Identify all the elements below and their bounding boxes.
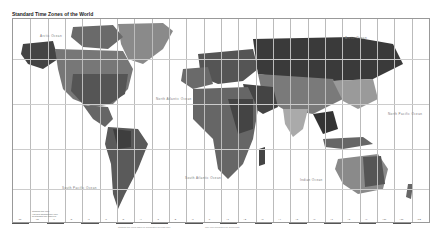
meridian-line <box>342 19 343 222</box>
meridian-line <box>308 19 309 222</box>
zone-offset-label: 0 <box>209 218 210 221</box>
zone-offset-label: -2 <box>174 218 176 221</box>
parallel-line <box>13 104 429 105</box>
zone-bar <box>116 223 133 224</box>
zone-offset-label: -7 <box>87 218 89 221</box>
zone-bar <box>151 223 168 224</box>
zone-bar <box>359 223 376 224</box>
meridian-line <box>134 19 135 222</box>
zone-bar <box>81 223 98 224</box>
zone-offset-label: -8 <box>70 218 72 221</box>
zone-offset-label: +3 <box>261 218 264 221</box>
zone-offset-label: +2 <box>243 218 246 221</box>
zone-offset-label: -9 <box>53 218 55 221</box>
zone-offset-label: -3 <box>157 218 159 221</box>
meridian-line <box>152 19 153 222</box>
meridian-line <box>394 19 395 222</box>
zone-offset-label: -11 <box>18 218 21 221</box>
zone-offset-label: -4 <box>139 218 141 221</box>
meridian-line <box>221 19 222 222</box>
zone-offset-label: +1 <box>226 218 229 221</box>
meridian-line <box>256 19 257 222</box>
zone-offset-label: +11 <box>399 218 403 221</box>
meridian-line <box>412 19 413 222</box>
zone-offset-label: +5 <box>295 218 298 221</box>
meridian-line <box>238 19 239 222</box>
map-legend: Standard time zone Half-hour standard ti… <box>32 210 58 218</box>
time-zone-scale: -11-10-9-8-7-6-5-4-3-2-10+1+2+3+4+5+6+7+… <box>12 218 428 224</box>
meridian-line <box>273 19 274 222</box>
zone-offset-label: -5 <box>122 218 124 221</box>
zone-offset-label: +12 <box>417 218 421 221</box>
parallel-line <box>13 59 429 60</box>
meridian-line <box>48 19 49 222</box>
zone-offset-label: +9 <box>365 218 368 221</box>
ocean-label: Arctic Ocean <box>40 34 62 38</box>
meridian-line <box>204 19 205 222</box>
zone-bar <box>185 223 202 224</box>
meridian-line <box>360 19 361 222</box>
zone-offset-label: +8 <box>347 218 350 221</box>
zone-offset-label: -10 <box>35 218 39 221</box>
footer-note-right: Time zone boundaries are approximate <box>205 226 240 228</box>
zone-bar <box>255 223 272 224</box>
zone-offset-label: -6 <box>105 218 107 221</box>
meridian-line <box>325 19 326 222</box>
meridian-line <box>186 19 187 222</box>
meridian-line <box>169 19 170 222</box>
zone-offset-label: +6 <box>313 218 316 221</box>
zone-bar <box>220 223 237 224</box>
ocean-label: North Atlantic Ocean <box>156 97 192 101</box>
zone-offset-label: -1 <box>191 218 193 221</box>
zone-bar <box>289 223 306 224</box>
parallel-line <box>13 149 429 150</box>
zone-bar <box>393 223 410 224</box>
zone-bar <box>12 223 29 224</box>
zone-bar <box>324 223 341 224</box>
meridian-line <box>82 19 83 222</box>
zone-offset-label: +7 <box>330 218 333 221</box>
footer-note-left: Standard time zones based on Coordinated… <box>118 226 170 228</box>
ocean-label: Indian Ocean <box>300 178 323 182</box>
ocean-label: North Pacific Ocean <box>388 112 422 116</box>
ocean-label: South Atlantic Ocean <box>185 176 221 180</box>
zone-offset-label: +10 <box>382 218 386 221</box>
meridian-line <box>30 19 31 222</box>
map-title: Standard Time Zones of the World <box>12 11 93 17</box>
ocean-label: South Pacific Ocean <box>62 186 97 190</box>
meridian-line <box>117 19 118 222</box>
meridian-line <box>65 19 66 222</box>
meridian-line <box>290 19 291 222</box>
zone-offset-label: +4 <box>278 218 281 221</box>
world-map <box>12 18 430 223</box>
ocean-label: Arctic Ocean <box>345 36 367 40</box>
meridian-line <box>377 19 378 222</box>
meridian-line <box>100 19 101 222</box>
zone-bar <box>47 223 64 224</box>
